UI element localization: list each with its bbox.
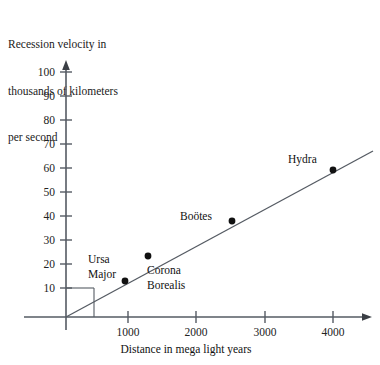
x-axis-caption: Distance in mega light years — [121, 343, 252, 356]
y-tick-label-10: 10 — [44, 282, 56, 294]
x-tick-label-3000: 3000 — [254, 326, 277, 338]
label-corona-borealis-line-1: Corona — [147, 264, 181, 276]
y-tick-label-90: 90 — [44, 90, 56, 102]
y-axis — [62, 60, 70, 330]
y-tick-label-70: 70 — [44, 138, 56, 150]
y-tick-label-30: 30 — [44, 234, 56, 246]
y-tick-label-20: 20 — [44, 258, 56, 270]
x-tick-label-2000: 2000 — [185, 326, 208, 338]
plot-area: 100 90 80 70 60 50 40 30 20 10 1000 2000… — [0, 0, 380, 365]
data-point-ursa-major[interactable] — [122, 278, 129, 285]
x-tick-label-4000: 4000 — [322, 326, 345, 338]
y-axis-tick-labels: 100 90 80 70 60 50 40 30 20 10 — [38, 66, 56, 294]
label-hydra: Hydra — [288, 153, 317, 166]
data-point-corona-borealis[interactable] — [145, 253, 152, 260]
label-ursa-major-line-1: Ursa — [88, 253, 110, 265]
slope-triangle — [66, 288, 94, 317]
y-tick-label-80: 80 — [44, 114, 56, 126]
label-bootes: Boötes — [180, 210, 212, 222]
x-tick-label-1000: 1000 — [117, 326, 140, 338]
y-tick-label-40: 40 — [44, 210, 56, 222]
label-ursa-major-line-2: Major — [88, 268, 116, 281]
data-point-labels: Ursa Major Corona Borealis Boötes Hydra — [88, 153, 317, 291]
data-point-bootes[interactable] — [229, 218, 236, 225]
x-axis — [24, 313, 372, 321]
data-point-hydra[interactable] — [330, 167, 337, 174]
x-axis-tick-labels: 1000 2000 3000 4000 — [117, 326, 345, 338]
label-corona-borealis-line-2: Borealis — [147, 279, 186, 291]
y-tick-label-100: 100 — [38, 66, 56, 78]
y-tick-label-50: 50 — [44, 186, 56, 198]
trendline — [66, 151, 373, 317]
hubble-law-chart: Recession velocity in thousands of kilom… — [0, 0, 380, 365]
y-tick-label-60: 60 — [44, 162, 56, 174]
